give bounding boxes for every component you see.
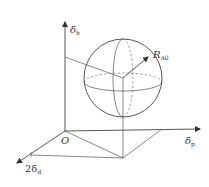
radius-arrow	[123, 57, 148, 78]
meridian-front	[113, 39, 123, 117]
meridian-back	[123, 39, 133, 117]
radius-label: RA0	[152, 49, 169, 61]
horizontal-axis	[65, 129, 200, 131]
hansen-sphere-diagram: δh RA0 δp O 2δd	[0, 0, 209, 187]
floor-projection-line	[31, 155, 123, 158]
horizontal-axis-label: δp	[185, 135, 195, 148]
depth-axis	[17, 131, 65, 163]
floor-projection-line	[123, 129, 162, 158]
origin-label: O	[61, 135, 69, 146]
vertical-axis-label: δh	[70, 24, 80, 36]
depth-axis-label: 2δd	[25, 163, 41, 175]
floor-diagonal-line	[65, 131, 123, 158]
